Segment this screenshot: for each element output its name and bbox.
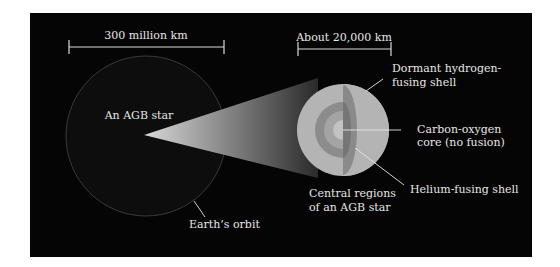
agb-star-label: An AGB star	[104, 109, 174, 122]
dormant-shell-label-line2: fusing shell	[392, 76, 457, 89]
central-regions-label-line2: of an AGB star	[309, 201, 391, 214]
dormant-shell-label-line1: Dormant hydrogen-	[392, 62, 502, 75]
central-regions-label-line1: Central regions	[309, 187, 396, 200]
helium-shell-label: Helium-fusing shell	[410, 183, 519, 196]
core-label-line1: Carbon-oxygen	[417, 123, 501, 136]
agb-star-diagram: 300 million km About 20,000 km An AGB st…	[0, 0, 560, 267]
scale-bar-small-label: About 20,000 km	[295, 31, 392, 44]
scale-bar-big-label: 300 million km	[104, 29, 188, 42]
core-label-line2: core (no fusion)	[417, 136, 505, 149]
earths-orbit-label: Earth’s orbit	[189, 218, 260, 231]
